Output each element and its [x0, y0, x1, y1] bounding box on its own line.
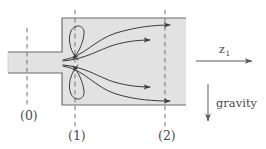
axis-label-z: z	[219, 43, 225, 56]
flow-diagram-canvas: (0) (1) (2) z 1 gravity	[0, 0, 266, 149]
duct-fill-shape	[8, 18, 186, 105]
gravity-direction-indicator: gravity	[208, 84, 258, 121]
duct-geometry	[8, 18, 186, 105]
station-label-2: (2)	[158, 128, 176, 143]
axis-label-z-subscript: 1	[226, 49, 231, 58]
gravity-label: gravity	[216, 96, 258, 110]
station-label-0: (0)	[20, 108, 38, 123]
axis-direction-indicator: z 1	[196, 43, 252, 61]
flow-diagram-figure: (0) (1) (2) z 1 gravity	[0, 0, 266, 149]
station-label-1: (1)	[68, 128, 86, 143]
